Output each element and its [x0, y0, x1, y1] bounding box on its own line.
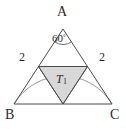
region-label-base: T: [56, 72, 63, 86]
side-length-label-left: 2: [19, 51, 25, 63]
region-label-t1: T1: [56, 73, 67, 86]
vertex-label-b: B: [5, 108, 14, 122]
geometry-figure: A B C 2 2 60° T1: [0, 0, 126, 129]
vertex-label-c: C: [110, 108, 119, 122]
geometry-canvas: [0, 0, 126, 129]
apex-angle-label: 60°: [52, 33, 66, 44]
apex-angle-value: 60: [52, 32, 63, 44]
side-length-label-right: 2: [99, 51, 105, 63]
vertex-label-a: A: [57, 5, 67, 19]
region-label-subscript: 1: [63, 77, 67, 86]
degree-symbol: °: [63, 33, 66, 41]
